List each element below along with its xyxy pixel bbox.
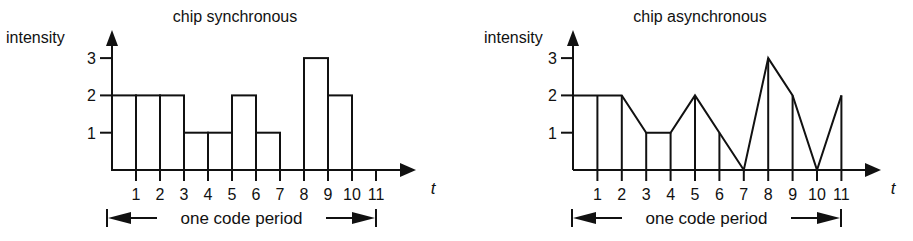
- x-tick-label: 3: [642, 186, 651, 203]
- x-tick-label: 6: [252, 186, 261, 203]
- x-tick-label: 10: [808, 186, 826, 203]
- x-tick-label: 4: [666, 186, 675, 203]
- x-tick-label: 8: [764, 186, 773, 203]
- x-axis-variable: t: [431, 179, 437, 198]
- x-tick-label: 2: [156, 186, 165, 203]
- bar: [328, 95, 352, 170]
- x-tick-label: 2: [617, 186, 626, 203]
- y-tick-label: 2: [548, 87, 557, 104]
- data-line: [573, 58, 841, 170]
- x-tick-label: 10: [343, 186, 361, 203]
- bar: [136, 95, 160, 170]
- y-axis-label: intensity: [484, 29, 543, 46]
- y-tick-label: 2: [87, 87, 96, 104]
- bar: [304, 58, 328, 170]
- y-tick-label: 3: [548, 50, 557, 67]
- bar: [184, 133, 208, 170]
- bar: [112, 95, 136, 170]
- bar: [232, 95, 256, 170]
- x-tick-label: 7: [739, 186, 748, 203]
- x-axis-arrow-icon: [400, 163, 416, 177]
- y-tick-label: 1: [87, 125, 96, 142]
- y-axis-label: intensity: [6, 29, 65, 46]
- period-right-arrow-icon: [817, 212, 840, 224]
- chart-title: chip synchronous: [173, 8, 298, 25]
- y-tick-label: 1: [548, 125, 557, 142]
- period-label: one code period: [646, 209, 768, 228]
- period-label: one code period: [181, 209, 303, 228]
- x-tick-label: 6: [715, 186, 724, 203]
- x-tick-label: 4: [204, 186, 213, 203]
- chart-title: chip asynchronous: [633, 8, 766, 25]
- bar: [256, 133, 280, 170]
- period-left-arrow-icon: [573, 212, 596, 224]
- x-axis-arrow-icon: [865, 163, 881, 177]
- x-axis-variable: t: [891, 179, 897, 198]
- y-axis-arrow-icon: [106, 30, 118, 46]
- x-tick-label: 9: [788, 186, 797, 203]
- y-axis-arrow-icon: [567, 30, 579, 46]
- x-tick-label: 5: [691, 186, 700, 203]
- x-tick-label: 3: [180, 186, 189, 203]
- x-tick-label: 11: [368, 186, 385, 203]
- period-left-arrow-icon: [108, 212, 131, 224]
- y-tick-label: 3: [87, 50, 96, 67]
- x-tick-label: 5: [228, 186, 237, 203]
- x-tick-label: 7: [276, 186, 285, 203]
- period-right-arrow-icon: [352, 212, 375, 224]
- bar: [208, 133, 232, 170]
- x-tick-label: 9: [324, 186, 333, 203]
- x-tick-label: 11: [833, 186, 850, 203]
- bar: [160, 95, 184, 170]
- figure-canvas: chip synchronousintensity123123456789101…: [0, 0, 913, 241]
- chart-chip-synchronous: chip synchronousintensity123123456789101…: [6, 8, 437, 228]
- chart-chip-asynchronous: chip asynchronousintensity12312345678910…: [484, 8, 897, 228]
- x-tick-label: 1: [132, 186, 141, 203]
- x-tick-label: 1: [593, 186, 602, 203]
- x-tick-label: 8: [300, 186, 309, 203]
